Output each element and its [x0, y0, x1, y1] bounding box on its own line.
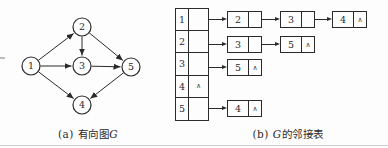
caption-b-var: G — [273, 128, 282, 140]
adj-pointer-arrow-head-2 — [209, 44, 222, 45]
caption-a-text: (a) 有向图 — [58, 128, 109, 140]
graph-node-5: 5 — [122, 58, 140, 76]
adj-pointer-arrow-2-1 — [262, 44, 275, 45]
adj-node-data-cell: 4 — [333, 12, 354, 27]
page-rule — [0, 145, 388, 146]
adj-node-pointer-cell: ∧ — [249, 60, 261, 75]
adj-head-pointer-cell — [189, 31, 208, 52]
adj-head-row-4: 4∧ — [176, 76, 208, 98]
graph-node-2: 2 — [73, 18, 91, 36]
caption-directed-graph: (a) 有向图G — [23, 126, 153, 141]
graph-node-label: 5 — [128, 61, 134, 72]
adj-head-row-5: 5 — [176, 98, 208, 120]
adj-node-box-2-5: 5∧ — [280, 36, 315, 53]
adj-head-pointer-cell: ∧ — [189, 76, 208, 97]
adj-head-row-2: 2 — [176, 31, 208, 53]
adj-node-box-3-5: 5∧ — [227, 59, 262, 76]
adj-node-pointer-cell — [249, 37, 261, 52]
adj-node-box-1-3: 3 — [280, 11, 315, 28]
graph-node-label: 4 — [79, 99, 85, 110]
graph-edge-3-5 — [92, 66, 121, 67]
figure-page: 12345 1234∧5 234∧35∧5∧4∧ (a) 有向图G (b) G的… — [0, 0, 388, 148]
graph-node-1: 1 — [22, 57, 40, 75]
adj-head-pointer-cell — [189, 9, 208, 30]
adj-node-pointer-cell: ∧ — [302, 37, 314, 52]
adj-node-pointer-cell: ∧ — [354, 12, 366, 27]
caption-adjacency-list: (b) G的邻接表 — [223, 126, 353, 141]
graph-node-label: 2 — [79, 21, 85, 32]
caption-b-post: 的邻接表 — [282, 128, 324, 140]
graph-node-4: 4 — [73, 96, 91, 114]
adj-vertex-cell: 5 — [176, 98, 189, 120]
adj-pointer-arrow-1-1 — [262, 19, 275, 20]
adj-vertex-cell: 3 — [176, 53, 189, 74]
adj-head-row-3: 3 — [176, 53, 208, 75]
graph-edge-1-4 — [39, 72, 74, 99]
adj-node-data-cell: 3 — [228, 37, 249, 52]
graph-edge-2-5 — [89, 33, 123, 60]
adj-pointer-arrow-head-3 — [209, 67, 222, 68]
adj-pointer-arrow-head-5 — [209, 108, 222, 109]
adj-vertex-cell: 4 — [176, 76, 189, 97]
adj-node-box-2-3: 3 — [227, 36, 262, 53]
graph-node-label: 3 — [79, 60, 85, 71]
graph-node-label: 1 — [28, 60, 34, 71]
graph-node-3: 3 — [73, 57, 91, 75]
adj-pointer-arrow-1-2 — [315, 19, 327, 20]
scan-artifact — [0, 57, 5, 59]
adj-node-data-cell: 5 — [281, 37, 302, 52]
adj-node-data-cell: 3 — [281, 12, 302, 27]
adj-pointer-arrow-head-1 — [209, 19, 222, 20]
adj-node-data-cell: 4 — [228, 101, 249, 116]
adj-node-box-1-4: 4∧ — [332, 11, 367, 28]
adj-node-pointer-cell: ∧ — [249, 101, 261, 116]
caption-a-var: G — [109, 128, 118, 140]
adj-vertex-cell: 1 — [176, 9, 189, 30]
adj-node-pointer-cell — [249, 12, 261, 27]
adjacency-head-table: 1234∧5 — [175, 8, 209, 121]
adj-node-data-cell: 5 — [228, 60, 249, 75]
adj-node-data-cell: 2 — [228, 12, 249, 27]
adj-vertex-cell: 2 — [176, 31, 189, 52]
graph-edge-1-2 — [39, 33, 74, 60]
adj-head-row-1: 1 — [176, 9, 208, 31]
adj-head-pointer-cell — [189, 53, 208, 74]
caption-b-text: (b) — [252, 128, 272, 140]
adj-node-box-1-2: 2 — [227, 11, 262, 28]
adj-node-box-5-4: 4∧ — [227, 100, 262, 117]
adj-node-pointer-cell — [302, 12, 314, 27]
adj-head-pointer-cell — [189, 98, 208, 120]
graph-edge-5-4 — [90, 73, 123, 99]
